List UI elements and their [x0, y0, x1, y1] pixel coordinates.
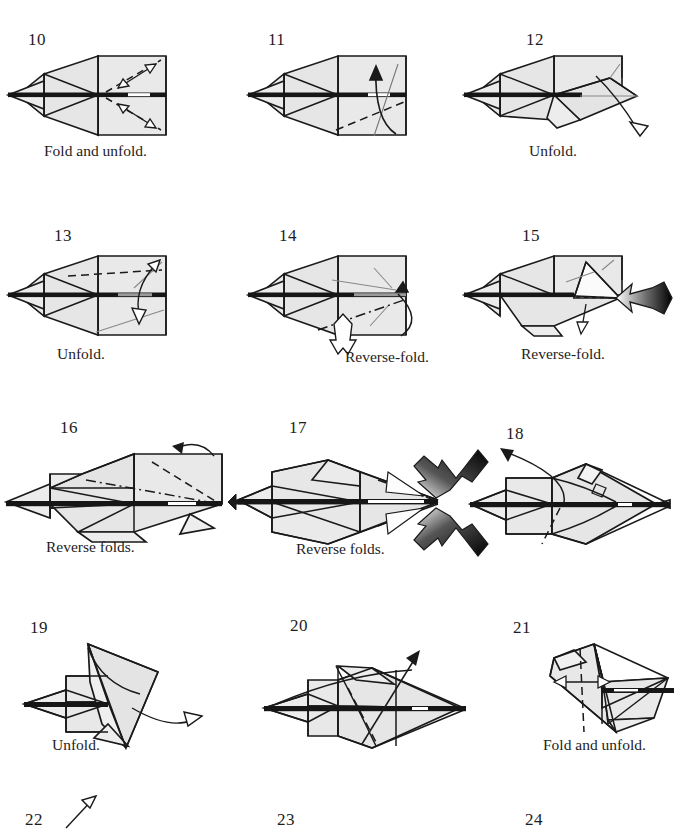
figure-step-21	[468, 620, 682, 740]
fold-arrow-partial	[66, 796, 96, 828]
step-number-11: 11	[268, 30, 285, 50]
caption-step-15: Reverse-fold.	[521, 345, 605, 363]
figure-step-14	[246, 248, 466, 358]
caption-step-21: Fold and unfold.	[543, 736, 646, 754]
figure-step-18	[456, 436, 682, 561]
step-number-23: 23	[277, 810, 295, 830]
step-number-10: 10	[28, 30, 46, 50]
figure-step-15	[462, 248, 682, 348]
caption-step-19: Unfold.	[52, 736, 100, 754]
figure-step-13	[6, 248, 226, 343]
caption-step-13: Unfold.	[57, 345, 105, 363]
caption-step-10: Fold and unfold.	[44, 142, 147, 160]
caption-step-12: Unfold.	[529, 142, 577, 160]
caption-step-17: Reverse folds.	[296, 540, 385, 558]
step-number-14: 14	[279, 226, 297, 246]
step-number-22: 22	[25, 810, 43, 830]
gradient-push-arrow	[616, 282, 672, 314]
figure-step-22-partial	[60, 794, 120, 833]
figure-step-11	[246, 48, 466, 143]
step-number-24: 24	[525, 810, 543, 830]
figure-step-17	[238, 430, 478, 550]
step-number-15: 15	[522, 226, 540, 246]
figure-step-20	[236, 626, 471, 746]
figure-step-16	[0, 432, 240, 547]
step-number-13: 13	[54, 226, 72, 246]
caption-step-16: Reverse folds.	[46, 538, 135, 556]
figure-step-10	[6, 48, 226, 143]
step-number-12: 12	[526, 30, 544, 50]
figure-step-12	[462, 48, 682, 148]
figure-step-19	[10, 620, 230, 735]
caption-step-14: Reverse-fold.	[345, 348, 429, 366]
